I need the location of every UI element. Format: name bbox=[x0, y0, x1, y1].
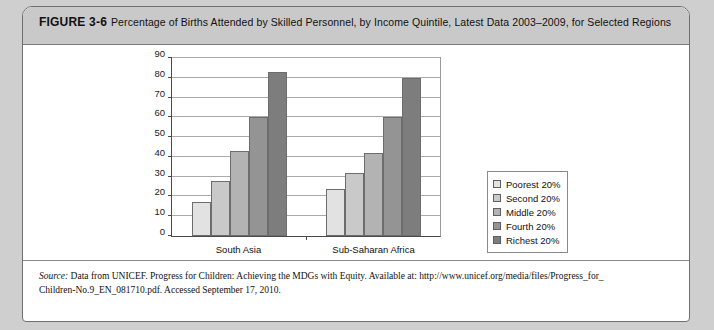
bar bbox=[364, 153, 383, 236]
y-axis-tick-label: 40 bbox=[154, 146, 165, 157]
bar-group bbox=[306, 58, 440, 236]
legend-item: Richest 20% bbox=[493, 233, 560, 247]
legend-swatch-icon bbox=[493, 208, 501, 216]
figure-caption-text: Percentage of Births Attended by Skilled… bbox=[111, 16, 671, 28]
chart-body: 0102030405060708090 South AsiaSub-Sahara… bbox=[23, 45, 689, 260]
figure-number: FIGURE 3-6 bbox=[39, 15, 107, 29]
source-band: Source: Data from UNICEF. Progress for C… bbox=[23, 261, 689, 321]
y-axis-tick-label: 70 bbox=[154, 87, 165, 98]
legend-label: Poorest 20% bbox=[506, 179, 560, 190]
legend-swatch-icon bbox=[493, 180, 501, 188]
y-axis-tick-label: 10 bbox=[154, 206, 165, 217]
figure-card: FIGURE 3-6Percentage of Births Attended … bbox=[22, 6, 690, 322]
legend-item: Second 20% bbox=[493, 191, 560, 205]
x-axis-tick bbox=[306, 236, 307, 240]
bar bbox=[192, 202, 211, 236]
source-prefix: Source: bbox=[39, 271, 68, 281]
y-axis-tick-label: 90 bbox=[154, 48, 165, 59]
legend-swatch-icon bbox=[493, 222, 501, 230]
bar bbox=[268, 72, 287, 236]
y-axis-tick-label: 20 bbox=[154, 186, 165, 197]
legend-swatch-icon bbox=[493, 236, 501, 244]
legend-swatch-icon bbox=[493, 194, 501, 202]
bar bbox=[230, 151, 249, 236]
bar bbox=[249, 117, 268, 236]
legend-label: Richest 20% bbox=[506, 235, 559, 246]
bar bbox=[402, 78, 421, 236]
legend-label: Second 20% bbox=[506, 193, 560, 204]
bar bbox=[326, 189, 345, 236]
figure-caption-band: FIGURE 3-6Percentage of Births Attended … bbox=[23, 7, 689, 45]
legend-label: Fourth 20% bbox=[506, 221, 555, 232]
bar bbox=[211, 181, 230, 236]
bar bbox=[383, 117, 402, 236]
legend-item: Poorest 20% bbox=[493, 177, 560, 191]
bar bbox=[345, 173, 364, 236]
x-axis-label: Sub-Saharan Africa bbox=[306, 244, 441, 255]
plot-area: 0102030405060708090 bbox=[171, 57, 441, 237]
legend-label: Middle 20% bbox=[506, 207, 556, 218]
y-axis-tick-label: 0 bbox=[160, 226, 165, 237]
x-axis-labels: South AsiaSub-Saharan Africa bbox=[171, 244, 441, 255]
plot-wrap: 0102030405060708090 South AsiaSub-Sahara… bbox=[171, 57, 441, 237]
chart-legend: Poorest 20%Second 20%Middle 20%Fourth 20… bbox=[487, 171, 568, 253]
y-axis-tick-label: 30 bbox=[154, 166, 165, 177]
source-line-2: Children-No.9_EN_081710.pdf. Accessed Se… bbox=[39, 285, 281, 295]
y-axis-tick-label: 60 bbox=[154, 107, 165, 118]
source-line-1: Data from UNICEF. Progress for Children:… bbox=[68, 271, 603, 281]
source-note: Source: Data from UNICEF. Progress for C… bbox=[39, 270, 673, 297]
x-axis-label: South Asia bbox=[171, 244, 306, 255]
y-axis-tick-label: 50 bbox=[154, 127, 165, 138]
y-axis-tick-label: 80 bbox=[154, 67, 165, 78]
bars-layer bbox=[172, 58, 440, 236]
figure-caption: FIGURE 3-6Percentage of Births Attended … bbox=[39, 15, 675, 30]
legend-item: Fourth 20% bbox=[493, 219, 560, 233]
legend-item: Middle 20% bbox=[493, 205, 560, 219]
bar-group bbox=[172, 58, 306, 236]
